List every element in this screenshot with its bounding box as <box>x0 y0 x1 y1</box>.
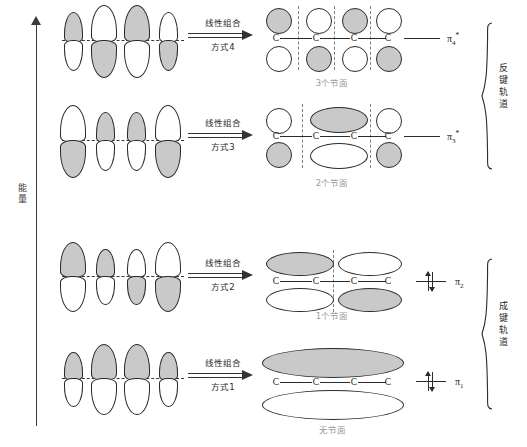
arrow-label-top: 线性组合 <box>186 118 260 129</box>
arrow-label-bottom: 方式4 <box>186 42 260 53</box>
mo-lobe-c3-top <box>342 8 368 34</box>
double-line-arrow-icon <box>188 370 258 381</box>
orbital-label-pi3: π3* <box>447 129 459 145</box>
mo-lobe-c3-bottom <box>342 46 368 72</box>
mo-lobe-c4-bottom <box>376 142 402 168</box>
carbon-label-2: C <box>310 377 322 387</box>
molecular-orbital-pi4: C C C C <box>262 6 397 72</box>
carbon-label-3: C <box>348 276 360 286</box>
energy-level-line-pi2 <box>416 281 446 282</box>
mo-lobe-c1-bottom <box>266 46 292 72</box>
arrow-label-bottom: 方式2 <box>186 282 260 293</box>
atomic-orbitals-row-pi1 <box>58 344 186 430</box>
arrow-label-bottom: 方式1 <box>186 382 260 393</box>
carbon-label-2: C <box>310 276 322 286</box>
p-lobe-lower <box>60 140 86 178</box>
p-lobe-upper <box>96 249 115 278</box>
node-count-label-pi3: 2个节面 <box>282 176 382 188</box>
mo-lobe-c2c3-top <box>310 107 368 133</box>
carbon-label-1: C <box>270 377 282 387</box>
orbital-subscript: 4 <box>452 39 456 47</box>
p-lobe-lower <box>155 276 181 312</box>
electron-arrow-up-head-icon <box>425 271 431 276</box>
atomic-orbitals-row-pi4 <box>58 4 186 90</box>
p-lobe-lower <box>64 40 83 71</box>
p-lobe-upper <box>60 105 86 143</box>
c-c-bond-1 <box>280 382 312 383</box>
orbital-label-pi4: π4* <box>447 31 459 47</box>
carbon-label-4: C <box>382 276 394 286</box>
p-lobe-lower <box>124 378 150 415</box>
atomic-orbitals-row-pi2 <box>58 244 186 330</box>
p-lobe-lower <box>64 378 83 407</box>
p-lobe-lower <box>60 276 86 312</box>
mo-lobe-all-bottom <box>262 390 404 420</box>
carbon-label-2: C <box>310 131 322 141</box>
electron-arrow-down-head-icon <box>429 287 435 292</box>
p-lobe-lower <box>96 140 115 171</box>
p-lobe-upper <box>127 112 146 143</box>
combination-arrow-pi3: 线性组合 方式3 <box>186 118 260 153</box>
c-c-bond-1 <box>280 38 312 39</box>
double-line-arrow-icon <box>188 130 258 141</box>
antibonding-brace-icon <box>481 22 495 170</box>
p-lobe-lower <box>127 140 146 171</box>
carbon-label-3: C <box>348 377 360 387</box>
antibonding-label: 反键轨道 <box>496 62 510 110</box>
bonding-brace-icon <box>481 258 495 410</box>
molecular-orbital-pi1: C C C C <box>258 348 403 420</box>
orbital-superscript: * <box>456 129 460 138</box>
energy-level-line-pi1 <box>416 381 446 382</box>
c-c-bond-2 <box>320 281 350 282</box>
mo-lobe-c2-top <box>306 8 332 34</box>
orbital-label-pi2: π2 <box>455 274 464 290</box>
p-lobe-upper <box>159 352 178 381</box>
carbon-label-1: C <box>270 276 282 286</box>
molecular-orbital-pi2: C C C C <box>262 250 397 314</box>
p-lobe-lower <box>127 276 146 305</box>
carbon-label-1: C <box>270 33 282 43</box>
p-lobe-lower <box>91 378 117 415</box>
arrow-label-top: 线性组合 <box>186 358 260 369</box>
p-lobe-upper <box>64 352 83 381</box>
p-lobe-lower <box>91 40 117 78</box>
p-lobe-upper <box>124 344 150 381</box>
mo-lobe-all-top <box>262 348 404 378</box>
p-lobe-upper <box>64 12 83 43</box>
energy-axis-label: 能量 <box>14 183 30 205</box>
carbon-label-4: C <box>382 131 394 141</box>
mo-lobe-c3c4-top <box>338 252 402 276</box>
combination-arrow-pi4: 线性组合 方式4 <box>186 18 260 53</box>
p-lobe-upper <box>124 5 150 43</box>
molecular-orbital-pi3: C C C C <box>262 104 397 170</box>
orbital-label-pi1: π1 <box>455 374 464 390</box>
p-lobe-lower <box>155 140 181 178</box>
mo-lobe-c1-top <box>266 8 292 34</box>
electron-pair-pi1 <box>416 372 448 392</box>
mo-lobe-c1c2-top <box>266 252 334 276</box>
node-count-label-pi2: 1个节面 <box>282 309 382 321</box>
p-lobe-lower <box>159 378 178 407</box>
p-lobe-upper <box>96 112 115 143</box>
double-line-arrow-icon <box>188 30 258 41</box>
p-lobe-upper <box>155 242 181 278</box>
energy-level-line-pi3 <box>404 136 440 137</box>
combination-arrow-pi2: 线性组合 方式2 <box>186 258 260 293</box>
carbon-label-4: C <box>382 377 394 387</box>
p-lobe-lower <box>96 276 115 305</box>
atomic-orbitals-row-pi3 <box>58 104 186 190</box>
energy-axis-line <box>36 22 37 426</box>
p-lobe-upper <box>91 344 117 381</box>
p-lobe-lower <box>124 40 150 78</box>
combination-arrow-pi1: 线性组合 方式1 <box>186 358 260 393</box>
arrow-label-top: 线性组合 <box>186 18 260 29</box>
mo-lobe-c4-top <box>376 8 402 34</box>
double-line-arrow-icon <box>188 270 258 281</box>
mo-lobe-c1-bottom <box>266 142 292 168</box>
p-lobe-lower <box>159 40 178 71</box>
carbon-label-3: C <box>348 33 360 43</box>
carbon-label-4: C <box>382 33 394 43</box>
node-count-label-pi4: 3个节面 <box>282 76 382 88</box>
p-lobe-upper <box>159 12 178 43</box>
orbital-subscript: 2 <box>460 282 464 290</box>
